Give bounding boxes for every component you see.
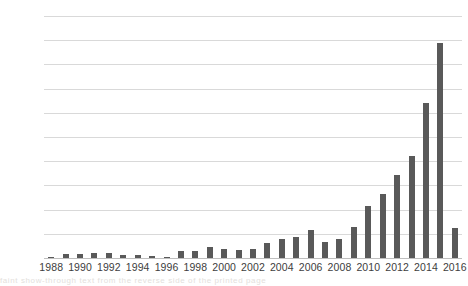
bar-chart-figure: 0200400600800100012001400160018002000 19… (0, 0, 468, 286)
bar (77, 254, 83, 258)
bar (135, 255, 141, 258)
bar (394, 175, 400, 258)
bar (336, 239, 342, 258)
bar (423, 103, 429, 258)
page-showthrough-text: faint show-through text from the reverse… (0, 276, 468, 286)
x-tick-label: 2008 (328, 261, 352, 273)
bar (293, 237, 299, 258)
x-tick-label: 2002 (241, 261, 265, 273)
bar (308, 230, 314, 258)
x-tick-label: 1992 (97, 261, 121, 273)
x-tick-label: 2014 (414, 261, 438, 273)
x-tick-label: 1990 (68, 261, 92, 273)
x-tick-label: 2016 (443, 261, 467, 273)
x-tick-label: 2004 (270, 261, 294, 273)
x-axis-tick-labels: 1988199019921994199619982000200220042006… (44, 259, 462, 275)
bar (351, 227, 357, 258)
x-tick-label: 2000 (212, 261, 236, 273)
x-tick-label: 1996 (155, 261, 179, 273)
bar (120, 255, 126, 258)
bar (250, 249, 256, 258)
bar-series (44, 16, 462, 258)
bar (149, 256, 155, 258)
bar (322, 242, 328, 258)
plot-area: 0200400600800100012001400160018002000 (44, 16, 462, 258)
x-tick-label: 2010 (356, 261, 380, 273)
x-tick-label: 2012 (385, 261, 409, 273)
x-tick-label: 1998 (183, 261, 207, 273)
x-tick-label: 1988 (39, 261, 63, 273)
bar (236, 250, 242, 258)
bar (164, 257, 170, 258)
bar (207, 247, 213, 258)
bar (221, 249, 227, 258)
bar (380, 194, 386, 258)
bar (279, 239, 285, 258)
bar (264, 243, 270, 258)
bar (178, 251, 184, 258)
bar (106, 253, 112, 258)
bar (409, 156, 415, 258)
x-tick-label: 2006 (299, 261, 323, 273)
bar (48, 257, 54, 258)
bar (365, 206, 371, 258)
x-tick-label: 1994 (126, 261, 150, 273)
bar (91, 253, 97, 258)
bar (192, 251, 198, 259)
bar (63, 254, 69, 258)
bar (437, 43, 443, 258)
bar (452, 228, 458, 258)
